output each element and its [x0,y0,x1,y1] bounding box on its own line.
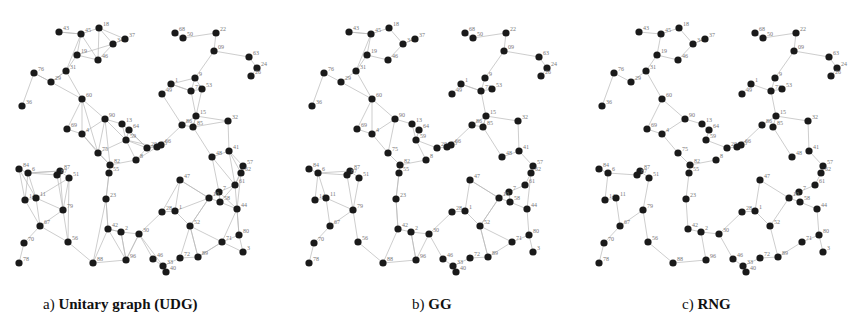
graph-node [94,149,101,156]
node-label: 10 [503,191,509,197]
graph-node [756,176,763,183]
graph-edge [190,226,198,257]
graph-node [192,112,199,119]
node-label: 84 [23,162,29,168]
node-label: 85 [487,120,493,126]
node-label: 64 [713,123,719,129]
graph-node [772,112,779,119]
caption-udg: a) Unitary graph (UDG) [43,296,198,313]
graph-node [245,53,252,60]
graph-node [595,165,602,172]
graph-node [314,169,321,176]
graph-node [89,259,96,266]
graph-node [191,74,198,81]
node-label: 75 [682,146,688,152]
graph-node [73,51,80,58]
graph-node [495,194,502,201]
graph-node [759,34,766,41]
graph-node [101,115,108,122]
graph-node [674,56,681,63]
caption-rng: c) RNG [682,296,731,313]
node-label: 3 [537,245,540,251]
graph-node [758,121,765,128]
node-label: 60 [86,92,92,98]
graph-node [466,176,473,183]
node-label: 63 [543,50,549,56]
graph-node [500,47,507,54]
graph-edge [429,234,443,259]
graph-node [448,208,455,215]
graph-node [684,225,691,232]
node-label: 30 [433,227,439,233]
graph-node [529,248,536,255]
node-label: 90 [399,112,405,118]
node-label: 52 [774,219,780,225]
node-label: 40 [170,265,176,271]
graph-edge [180,180,209,198]
graph-node [149,255,156,262]
node-label: 36 [316,99,322,105]
node-label: 87 [641,168,647,174]
graph-node [176,254,183,261]
graph-node [817,169,824,176]
graph-node [778,85,785,92]
graph-edge [25,200,40,226]
node-label: 37 [129,32,135,38]
node-label: 22 [220,26,226,32]
graph-node [55,28,62,35]
graph-node [657,30,664,37]
node-label: 47 [184,173,190,179]
node-label: 59 [710,133,716,139]
node-label: 9 [489,71,492,77]
graph-node [466,254,473,261]
graph-node [825,53,832,60]
graph-node [610,69,617,76]
graph-edge [504,51,539,57]
node-label: 28 [746,205,752,211]
node-label: 60 [666,92,672,98]
node-label: 76 [38,66,44,72]
node-label: 80 [533,228,539,234]
node-label: 37 [419,32,425,38]
graph-node [47,78,54,85]
node-label: 57 [827,159,833,165]
graph-edge [98,28,99,60]
node-label: 29 [345,75,351,81]
node-label: 2 [415,225,418,231]
graph-node [514,117,521,124]
graph-edge [771,91,776,116]
node-label: 96 [130,253,136,259]
graph-edge [68,178,69,242]
graph-node [355,174,362,181]
graph-edge [36,198,40,226]
graph-node [422,156,429,163]
graph-edge [483,127,502,157]
graph-node [461,207,468,214]
node-label: 44 [531,202,537,208]
node-label: 86 [766,118,772,124]
graph-edge [195,51,214,78]
node-label: 62 [825,166,831,172]
graph-node [515,147,522,154]
node-label: 76 [328,66,334,72]
node-label: 75 [102,146,108,152]
graph-node [158,90,165,97]
node-label: 79 [357,203,363,209]
graph-node [604,169,611,176]
node-label: 82 [404,158,410,164]
graph-edge [372,134,388,153]
node-label: 24 [551,61,557,67]
node-label: 6 [322,166,325,172]
graph-edge [318,173,347,175]
graph-edge [193,127,212,157]
graph-node [774,253,781,260]
graph-edge [686,173,689,199]
node-label: 42 [692,222,698,228]
node-label: 29 [635,75,641,81]
node-label: 53 [206,82,212,88]
node-label: 45 [665,27,671,33]
graph-edge [212,157,235,185]
node-label: 2 [125,225,128,231]
node-label: 79 [647,203,653,209]
graph-node [121,35,128,42]
